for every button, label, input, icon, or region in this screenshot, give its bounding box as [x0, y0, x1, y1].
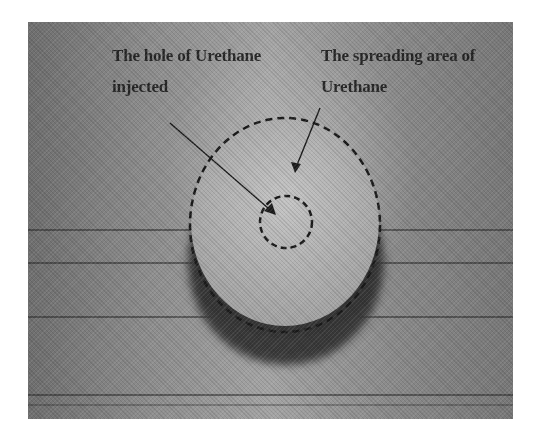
spreading-label: The spreading area of Urethane — [321, 40, 475, 102]
specimen-photo: The hole of Urethane injected The spread… — [28, 22, 513, 419]
hole-label: The hole of Urethane injected — [112, 40, 261, 102]
hole-label-line2: injected — [112, 71, 261, 102]
hole-label-line1: The hole of Urethane — [112, 40, 261, 71]
spreading-label-line1: The spreading area of — [321, 40, 475, 71]
spreading-label-line2: Urethane — [321, 71, 475, 102]
